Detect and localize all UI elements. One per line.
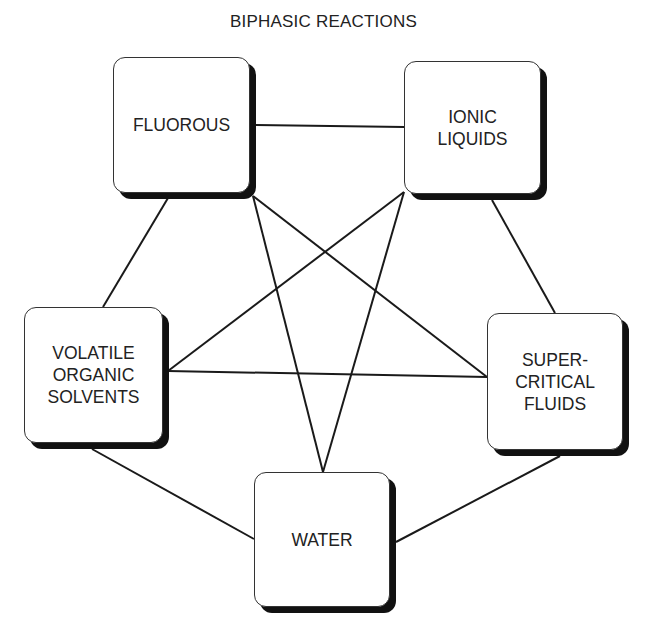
node-fluorous: FLUOROUS [113,57,250,193]
node-label: WATER [291,529,352,551]
node-supercritical-fluids: SUPER- CRITICAL FLUIDS [487,313,623,450]
edge-ionic-liquids-supercritical-fluids [492,200,555,313]
edge-supercritical-fluids-water [396,456,560,542]
node-volatile-organic-solvents: VOLATILE ORGANIC SOLVENTS [24,307,163,443]
node-label: FLUOROUS [133,114,230,136]
node-label: IONIC LIQUIDS [437,106,507,150]
node-ionic-liquids: IONIC LIQUIDS [404,61,541,194]
node-label: VOLATILE ORGANIC SOLVENTS [47,342,139,408]
edge-fluorous-water [253,196,323,472]
edge-ionic-liquids-volatile-organic-solvents [168,192,404,371]
edge-fluorous-volatile-organic-solvents [103,198,168,307]
edge-fluorous-supercritical-fluids [253,196,487,377]
node-water: WATER [254,472,390,607]
node-label: SUPER- CRITICAL FLUIDS [515,349,595,415]
edge-ionic-liquids-water [323,192,404,472]
edge-volatile-organic-solvents-water [92,449,254,539]
edge-fluorous-ionic-liquids [256,125,404,127]
edge-volatile-organic-solvents-supercritical-fluids [168,371,487,377]
